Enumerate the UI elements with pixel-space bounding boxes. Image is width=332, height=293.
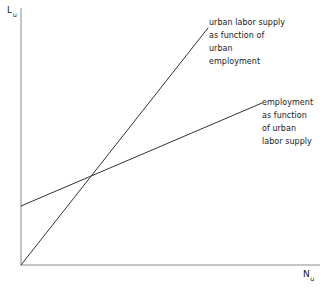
series-line-urban-labor-supply <box>21 28 208 265</box>
x-axis-label-subscript: u <box>310 275 314 283</box>
annotation-line: employment <box>209 55 285 68</box>
annotation-line: as function of <box>209 29 285 42</box>
annotation-line: urban <box>209 42 285 55</box>
chart-figure: Lu Nu urban labor supply as function of … <box>0 0 332 293</box>
annotation-employment: employment as function of urban labor su… <box>262 96 313 148</box>
annotation-urban-labor-supply: urban labor supply as function of urban … <box>209 16 285 68</box>
y-axis-label: Lu <box>7 6 16 19</box>
annotation-line: urban labor supply <box>209 16 285 29</box>
x-axis-label: Nu <box>303 270 314 283</box>
series-line-employment <box>21 103 262 206</box>
annotation-line: of urban <box>262 122 313 135</box>
annotation-line: labor supply <box>262 135 313 148</box>
annotation-line: as function <box>262 109 313 122</box>
annotation-line: employment <box>262 96 313 109</box>
y-axis-label-subscript: u <box>13 11 17 19</box>
x-axis-label-base: N <box>303 269 310 279</box>
y-axis-label-base: L <box>7 5 12 15</box>
